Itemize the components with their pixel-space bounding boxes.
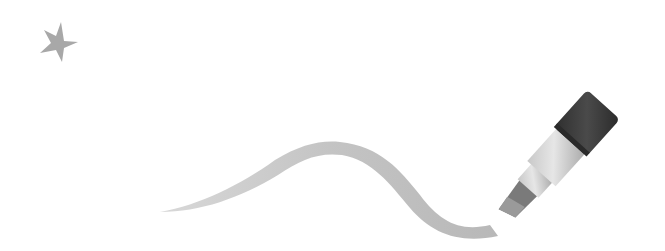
illustration-svg	[0, 0, 665, 251]
star-icon	[40, 22, 78, 62]
wavy-stroke	[160, 142, 498, 239]
illustration-canvas	[0, 0, 665, 251]
marker-icon	[488, 90, 620, 229]
